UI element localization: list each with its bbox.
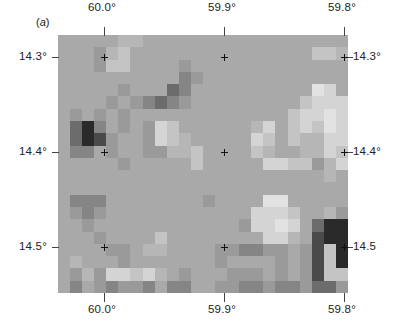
map-pixel (167, 219, 179, 231)
map-pixel (263, 195, 275, 207)
map-pixel (191, 158, 203, 170)
map-pixel (239, 244, 251, 256)
map-pixel (239, 268, 251, 280)
left-lat-label: 14.3° (19, 50, 47, 62)
map-pixel (275, 182, 287, 194)
map-pixel (106, 47, 118, 59)
map-pixel (106, 96, 118, 108)
map-pixel (94, 84, 106, 96)
map-pixel (106, 256, 118, 268)
map-pixel (300, 84, 312, 96)
map-pixel (155, 170, 167, 182)
map-pixel (106, 146, 118, 158)
map-pixel (70, 72, 82, 84)
map-pixel (227, 170, 239, 182)
map-pixel (179, 35, 191, 47)
map-pixel (300, 268, 312, 280)
map-pixel (191, 109, 203, 121)
grid-cross-marker (341, 149, 348, 156)
map-pixel (155, 96, 167, 108)
map-pixel (324, 133, 336, 145)
map-pixel (70, 146, 82, 158)
map-pixel (143, 281, 155, 293)
left-tick (52, 247, 59, 248)
map-pixel (167, 146, 179, 158)
map-pixel (239, 207, 251, 219)
map-pixel (155, 47, 167, 59)
map-pixel (324, 268, 336, 280)
map-pixel (312, 84, 324, 96)
map-pixel (251, 195, 263, 207)
map-pixel (118, 158, 130, 170)
map-pixel (288, 195, 300, 207)
map-pixel (82, 268, 94, 280)
map-pixel (203, 158, 215, 170)
map-pixel (179, 121, 191, 133)
map-pixel (227, 60, 239, 72)
map-pixel (94, 158, 106, 170)
map-pixel (288, 256, 300, 268)
map-pixel (118, 232, 130, 244)
map-pixel (227, 281, 239, 293)
grayscale-raster-map (58, 35, 348, 293)
map-pixel (82, 182, 94, 194)
map-pixel (336, 35, 348, 47)
map-pixel (288, 244, 300, 256)
map-pixel (155, 121, 167, 133)
map-pixel (82, 195, 94, 207)
map-pixel (94, 60, 106, 72)
map-pixel (191, 256, 203, 268)
map-pixel (275, 96, 287, 108)
map-pixel (263, 268, 275, 280)
bottom-lon-label: 59.8° (328, 303, 356, 315)
map-pixel (324, 121, 336, 133)
map-pixel (58, 244, 70, 256)
map-pixel (239, 195, 251, 207)
map-pixel (263, 47, 275, 59)
map-pixel (251, 182, 263, 194)
right-lat-label: 14.3° (353, 50, 381, 62)
map-pixel (155, 219, 167, 231)
map-pixel (203, 232, 215, 244)
map-pixel (251, 121, 263, 133)
map-pixel (179, 207, 191, 219)
map-pixel (58, 121, 70, 133)
map-pixel (288, 182, 300, 194)
map-pixel (336, 133, 348, 145)
map-pixel (263, 109, 275, 121)
map-pixel (155, 268, 167, 280)
map-pixel (191, 207, 203, 219)
map-pixel (275, 72, 287, 84)
map-pixel (288, 219, 300, 231)
map-pixel (215, 72, 227, 84)
bottom-lon-label: 59.9° (208, 303, 236, 315)
map-pixel (312, 232, 324, 244)
map-pixel (118, 35, 130, 47)
map-pixel (82, 47, 94, 59)
map-pixel (336, 195, 348, 207)
map-pixel (94, 182, 106, 194)
map-pixel (336, 182, 348, 194)
map-pixel (167, 158, 179, 170)
map-pixel (58, 96, 70, 108)
map-pixel (312, 268, 324, 280)
map-pixel (155, 158, 167, 170)
map-pixel (227, 146, 239, 158)
map-pixel (227, 195, 239, 207)
map-pixel (251, 207, 263, 219)
map-pixel (94, 207, 106, 219)
map-pixel (203, 35, 215, 47)
map-pixel (94, 195, 106, 207)
map-pixel (275, 35, 287, 47)
map-pixel (203, 84, 215, 96)
map-pixel (263, 96, 275, 108)
map-pixel (70, 84, 82, 96)
map-pixel (239, 109, 251, 121)
map-pixel (239, 133, 251, 145)
grid-cross-marker (341, 244, 348, 251)
map-pixel (70, 109, 82, 121)
map-pixel (251, 219, 263, 231)
map-pixel (288, 84, 300, 96)
grid-cross-marker (101, 149, 108, 156)
map-pixel (94, 256, 106, 268)
